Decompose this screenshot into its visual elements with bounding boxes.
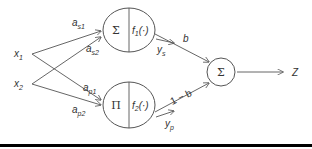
sum-node: Σ f1(·) xyxy=(103,8,155,52)
output-yp: yp xyxy=(164,118,174,132)
weight-as1: as1 xyxy=(72,17,85,30)
product-node: Π f2(·) xyxy=(103,82,155,128)
f2-label: f2(·) xyxy=(132,100,149,112)
input-x2: x2 xyxy=(13,78,23,91)
sigma-symbol: Σ xyxy=(217,66,225,79)
pi-symbol: Π xyxy=(111,99,121,112)
weight-ap2: ap2 xyxy=(72,104,85,118)
neural-diagram: x1 x2 as1 as2 ap1 ap2 Σ f1(·) Π f2(·) b … xyxy=(0,0,312,149)
weight-one-minus-b: 1 − b xyxy=(168,87,193,107)
output-z: Z xyxy=(291,67,299,78)
weight-b: b xyxy=(183,33,189,44)
input-x1: x1 xyxy=(13,48,23,61)
sigma-symbol: Σ xyxy=(112,24,120,37)
bottom-rule xyxy=(0,144,312,147)
output-ys: ys xyxy=(156,44,166,57)
weight-as2: as2 xyxy=(86,43,99,56)
f1-label: f1(·) xyxy=(132,25,149,37)
node-output-edges xyxy=(155,34,209,117)
weight-ap1: ap1 xyxy=(83,82,96,96)
output-sum-node: Σ xyxy=(207,58,235,86)
